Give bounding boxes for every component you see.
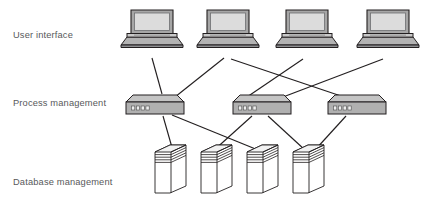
router-icon-1[interactable]: [126, 95, 184, 114]
server-tower-icon-3[interactable]: [247, 145, 278, 193]
server-tower-icon-1[interactable]: [155, 145, 186, 193]
server-tower-icon-2[interactable]: [201, 145, 232, 193]
network-diagram-svg: [0, 0, 428, 214]
laptop-icon-3[interactable]: [276, 10, 338, 48]
tier-user-interface-nodes: [121, 10, 419, 48]
laptop-icon-4[interactable]: [357, 10, 419, 48]
router-icon-2[interactable]: [233, 95, 291, 114]
link-laptop2-router3: [231, 59, 341, 96]
diagram-canvas: User interface Process management Databa…: [0, 0, 428, 214]
tier-process-management-nodes: [126, 95, 386, 114]
link-laptop2-router1: [175, 58, 224, 97]
tier-database-management-nodes: [155, 145, 324, 193]
server-tower-icon-4[interactable]: [293, 145, 324, 193]
laptop-icon-2[interactable]: [197, 10, 259, 48]
link-laptop4-router2: [283, 59, 383, 97]
laptop-icon-1[interactable]: [121, 10, 183, 48]
link-laptop3-router2: [247, 59, 303, 97]
link-laptop1-router1: [152, 58, 162, 94]
router-icon-3[interactable]: [328, 95, 386, 114]
